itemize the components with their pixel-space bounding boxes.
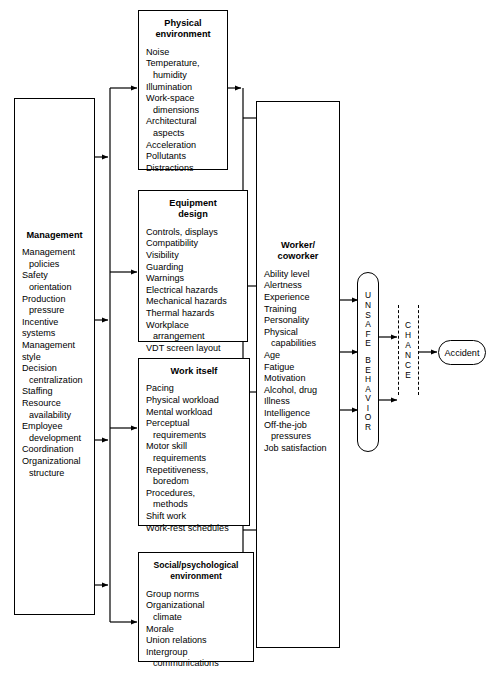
list-item: Pacing [139,383,249,395]
list-item: Alcohol, drug [257,385,339,397]
list-item-continuation: communications [146,658,253,670]
management-title: Management [15,230,94,241]
list-item: Age [257,350,339,362]
social-psychological-environment-items: Group norms Organizationalclimate Morale… [139,583,253,674]
list-item: Managementpolicies [15,247,94,270]
diagram-canvas: Management Managementpolicies Safetyorie… [0,0,489,676]
list-item: Employeedevelopment [15,421,94,444]
list-item: Organizationalclimate [139,600,253,623]
list-item: Morale [139,624,253,636]
list-item-continuation: requirements [146,430,249,442]
social-psychological-environment-title: Social/psychological environment [139,553,253,583]
list-item: Repetitiveness,boredom [139,465,249,488]
list-item: Motor skillrequirements [139,441,249,464]
list-item: VDT screen layout [139,343,247,355]
physical-environment-items: Noise Temperature,humidity Illumination … [139,41,227,179]
work-itself-items: Pacing Physical workload Mental workload… [139,377,249,538]
equipment-design-box[interactable]: Equipment design Controls, displays Comp… [138,190,248,342]
equipment-design-items: Controls, displays Compatibility Visibil… [139,221,247,359]
worker-coworker-box[interactable]: Worker/ coworker Ability level Alertness… [256,101,340,648]
behavior-letter: R [365,423,371,433]
chance-boundary-left [398,305,399,395]
management-box[interactable]: Management Managementpolicies Safetyorie… [14,98,95,615]
list-item: Visibility [139,250,247,262]
list-item-continuation: arrangement [146,331,247,343]
list-item-continuation: climate [146,612,253,624]
list-item: Personality [257,315,339,327]
list-item: Coordination [15,444,94,456]
list-item-continuation: development [22,433,94,445]
list-item: Safetyorientation [15,270,94,293]
list-item: Noise [139,47,227,59]
list-item-continuation: aspects [146,128,227,140]
work-itself-title: Work itself [139,359,249,377]
list-item-continuation: structure [22,468,94,480]
list-item: Productionpressure [15,294,94,317]
physical-environment-title: Physical environment [139,11,227,41]
equipment-design-title: Equipment design [139,191,247,221]
list-item: Staffing [15,386,94,398]
social-psychological-environment-box[interactable]: Social/psychological environment Group n… [138,552,254,662]
list-item: Union relations [139,635,253,647]
unsafe-letter: E [365,339,371,349]
chance-boundary-right [418,305,419,395]
list-item: Mental workload [139,407,249,419]
list-item: Group norms [139,589,253,601]
list-item: Alertness [257,280,339,292]
worker-coworker-items: Ability level Alertness Experience Train… [257,263,339,459]
list-item: Physical workload [139,395,249,407]
list-item: Decisioncentralization [15,363,94,386]
list-item: Off-the-jobpressures [257,420,339,443]
list-item: Workplacearrangement [139,320,247,343]
unsafe-behavior-capsule[interactable]: U N S A F E B E H A V I O R [357,272,379,452]
list-item: Motivation [257,373,339,385]
list-item-continuation: boredom [146,476,249,488]
list-item: Guarding [139,262,247,274]
list-item: Management style [15,340,94,363]
list-item: Job satisfaction [257,443,339,455]
list-item: Procedures,methods [139,488,249,511]
list-item-continuation: dimensions [146,105,227,117]
list-item: Perceptualrequirements [139,418,249,441]
management-items: Managementpolicies Safetyorientation Pro… [15,241,94,483]
list-item: Pollutants [139,151,227,163]
list-item: Thermal hazards [139,308,247,320]
list-item-continuation: humidity [146,70,227,82]
list-item-continuation: pressures [264,431,339,443]
list-item: Warnings [139,273,247,285]
list-item: Acceleration [139,140,227,152]
list-item: Distractions [139,163,227,175]
list-item: Illness [257,396,339,408]
accident-node[interactable]: Accident [438,340,486,365]
worker-coworker-title: Worker/ coworker [257,102,339,263]
list-item-continuation: methods [146,499,249,511]
list-item: Architecturalaspects [139,116,227,139]
list-item: Work-spacedimensions [139,93,227,116]
list-item: Intelligence [257,408,339,420]
list-item: Compatibility [139,238,247,250]
list-item-continuation: pressure [22,305,94,317]
list-item-continuation: centralization [22,375,94,387]
list-item: Resourceavailability [15,398,94,421]
chance-label: C H A N C E [400,318,416,384]
list-item: Work-rest schedules [139,523,249,535]
list-item: Incentive systems [15,317,94,340]
list-item: Experience [257,292,339,304]
list-item: Electrical hazards [139,285,247,297]
list-item: Training [257,304,339,316]
list-item: Controls, displays [139,227,247,239]
physical-environment-box[interactable]: Physical environment Noise Temperature,h… [138,10,228,170]
list-item: Illumination [139,82,227,94]
list-item-continuation: requirements [146,453,249,465]
list-item-continuation: capabilities [264,338,339,350]
list-item-continuation: policies [22,259,94,271]
list-item-continuation: availability [22,410,94,422]
list-item-continuation: orientation [22,282,94,294]
list-item: Temperature,humidity [139,58,227,81]
list-item: Physicalcapabilities [257,327,339,350]
work-itself-box[interactable]: Work itself Pacing Physical workload Men… [138,358,250,526]
chance-letter: E [405,371,411,381]
list-item: Shift work [139,511,249,523]
list-item: Ability level [257,269,339,281]
list-item: Fatigue [257,362,339,374]
